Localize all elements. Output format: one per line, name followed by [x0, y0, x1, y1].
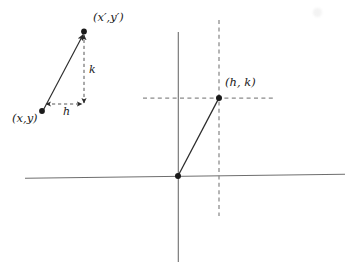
position-vector-line: [178, 99, 219, 176]
x-axis-line: [25, 174, 345, 178]
right-axes-panel: [25, 20, 345, 262]
label-vertical-component-k: k: [89, 64, 96, 75]
point-x-y-dot: [39, 108, 45, 114]
label-point-x-prime-y-prime: (x′,y′): [93, 12, 124, 24]
translation-vector-figure: (x′,y′) (x,y) k h (h, k): [0, 0, 353, 271]
label-point-x-y: (x,y): [12, 113, 38, 125]
figure-canvas: [0, 0, 353, 271]
translation-vector-line: [43, 35, 83, 111]
point-xprime-yprime-dot: [81, 29, 87, 35]
scan-artifact-smudge: [313, 8, 322, 17]
origin-dot: [175, 173, 181, 179]
label-horizontal-component-h: h: [63, 106, 70, 117]
point-h-k-dot: [216, 95, 222, 101]
label-point-h-k: (h, k): [225, 77, 256, 89]
left-triangle-panel: [39, 29, 87, 114]
